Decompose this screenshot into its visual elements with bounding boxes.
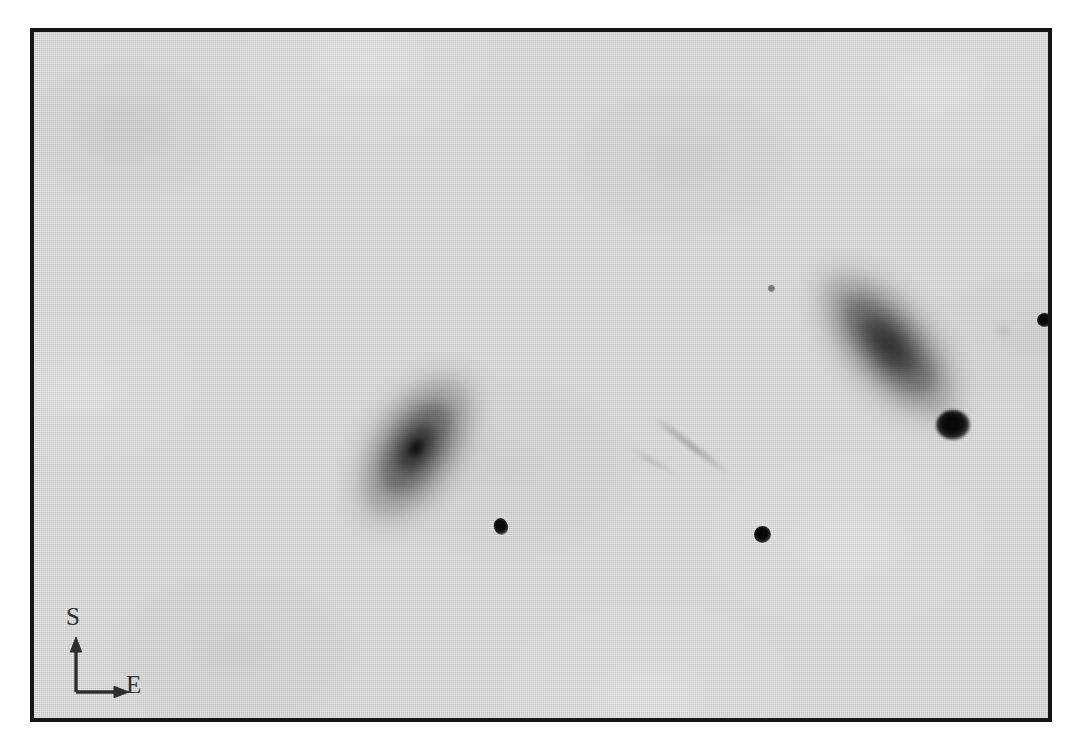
figure-canvas: S E	[0, 0, 1079, 756]
compass-label-south: S	[66, 604, 80, 629]
emulsion-mottle-texture	[30, 28, 1052, 722]
sky-background	[34, 32, 1048, 718]
orientation-compass: S E	[52, 604, 182, 710]
compass-label-east: E	[126, 672, 141, 697]
plate-frame: S E	[30, 28, 1052, 722]
